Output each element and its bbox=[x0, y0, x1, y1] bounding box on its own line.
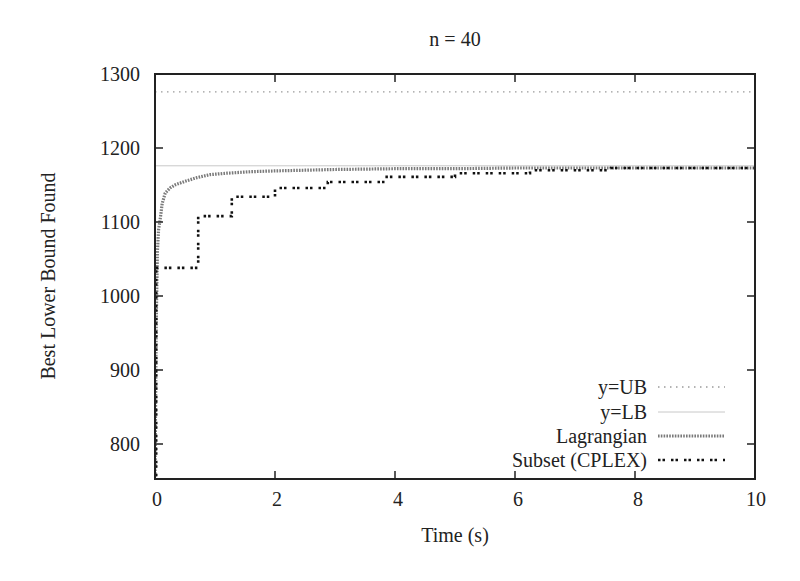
x-tick-label-8: 8 bbox=[633, 488, 643, 511]
y-tick-label-900: 900 bbox=[110, 359, 140, 382]
x-tick-label-6: 6 bbox=[513, 488, 523, 511]
x-tick-label-2: 2 bbox=[272, 488, 282, 511]
x-tick-label-4: 4 bbox=[393, 488, 403, 511]
y-tick-label-1300: 1300 bbox=[100, 63, 140, 86]
y-tick-label-1000: 1000 bbox=[100, 285, 140, 308]
series-lagrangian-line bbox=[155, 168, 755, 480]
legend-label-lagrangian: Lagrangian bbox=[556, 426, 647, 446]
series-subset-cplex-line bbox=[155, 168, 755, 480]
axes-frame bbox=[155, 74, 755, 479]
series-layer bbox=[155, 92, 755, 480]
x-axis-label: Time (s) bbox=[421, 524, 489, 547]
y-tick-label-1200: 1200 bbox=[100, 137, 140, 160]
legend-samples bbox=[658, 387, 725, 460]
chart-title: n = 40 bbox=[0, 28, 800, 51]
legend-label-subset-cplex: Subset (CPLEX) bbox=[512, 450, 647, 470]
legend-label-lb: y=LB bbox=[600, 402, 647, 422]
x-tick-label-0: 0 bbox=[152, 488, 162, 511]
x-tick-label-10: 10 bbox=[746, 488, 766, 511]
y-axis-label: Best Lower Bound Found bbox=[37, 172, 60, 379]
plot-frame bbox=[155, 74, 755, 479]
y-tick-label-800: 800 bbox=[110, 433, 140, 456]
legend-label-ub: y=UB bbox=[598, 377, 647, 397]
y-tick-label-1100: 1100 bbox=[101, 211, 140, 234]
